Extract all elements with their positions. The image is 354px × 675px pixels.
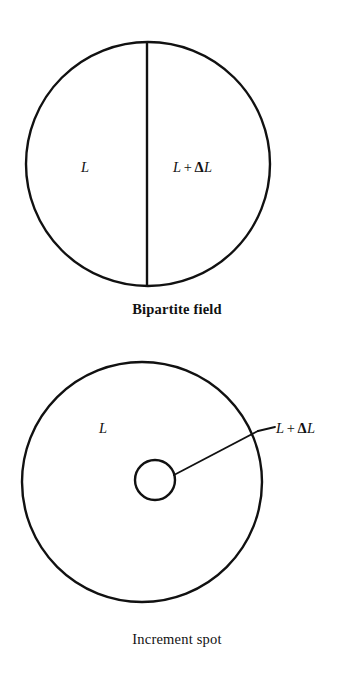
increment-outer-circle [22,362,262,602]
bipartite-plus-operator: + [181,159,194,175]
bipartite-right-field-label: L+ΔL [173,160,212,175]
figure-bipartite-field: L L+ΔL Bipartite field [0,0,354,335]
increment-inner-spot-circle [135,460,175,500]
bipartite-field-diagram [0,0,354,300]
figure-increment-spot: L L+ΔL Increment spot [0,335,354,675]
increment-surround-field-label: L [99,421,107,436]
increment-spot-caption: Increment spot [0,631,354,648]
increment-surround-luminance-symbol: L [99,420,107,436]
bipartite-delta-symbol: Δ [194,159,204,175]
bipartite-left-luminance-symbol: L [81,159,89,175]
increment-spot-diagram [0,335,354,625]
increment-leader-line [174,431,258,475]
bipartite-left-field-label: L [81,160,89,175]
increment-delta-symbol: Δ [297,420,307,436]
figure-sheet: L L+ΔL Bipartite field L L+ΔL Increment … [0,0,354,675]
bipartite-delta-luminance-symbol: L [204,159,212,175]
increment-leader-stub [258,427,275,431]
bipartite-field-caption: Bipartite field [0,301,354,318]
increment-spot-leader-label: L+ΔL [276,421,315,436]
increment-plus-operator: + [284,420,297,436]
increment-delta-luminance-symbol: L [307,420,315,436]
